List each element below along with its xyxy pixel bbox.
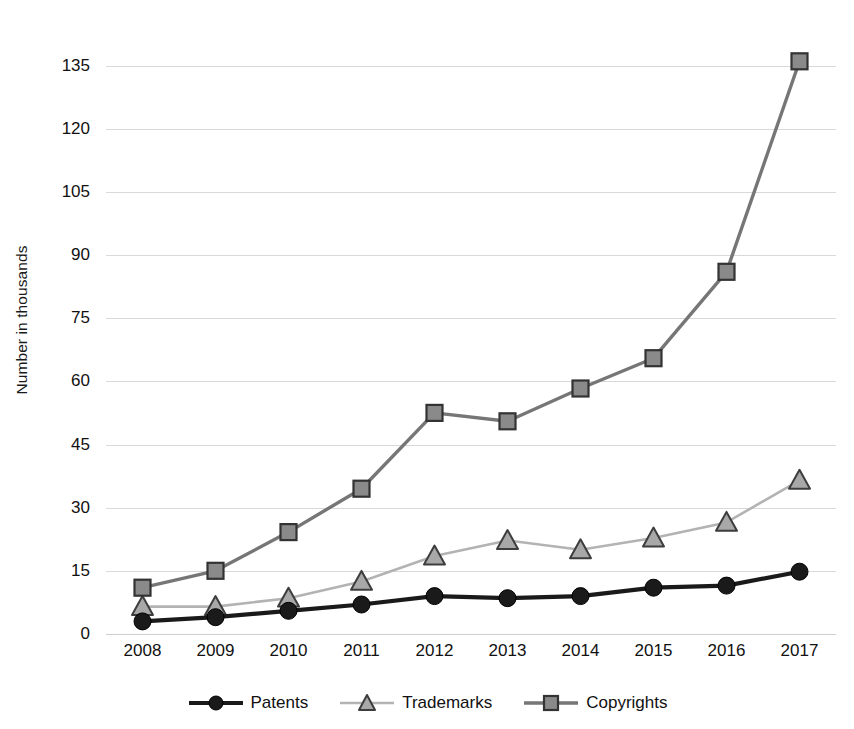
legend-label-copyrights: Copyrights xyxy=(586,693,667,713)
data-point-trademarks-2013 xyxy=(497,530,518,549)
gridline-0 xyxy=(106,634,836,635)
data-point-copyrights-2008 xyxy=(135,580,151,596)
x-tick-label-2009: 2009 xyxy=(176,641,256,661)
data-point-patents-2008 xyxy=(134,613,151,630)
data-point-copyrights-2012 xyxy=(427,405,443,421)
x-tick-label-2011: 2011 xyxy=(322,641,402,661)
x-axis-tick-labels: 2008200920102011201220132014201520162017 xyxy=(106,641,836,667)
data-point-patents-2015 xyxy=(645,579,662,596)
chart-legend: PatentsTrademarksCopyrights xyxy=(0,684,854,722)
data-point-trademarks-2016 xyxy=(716,512,737,531)
series-line-patents xyxy=(143,572,800,622)
x-tick-label-2016: 2016 xyxy=(687,641,767,661)
square-marker-icon xyxy=(522,692,580,714)
series-patents xyxy=(134,563,808,630)
data-point-copyrights-2016 xyxy=(719,264,735,280)
legend-item-trademarks[interactable]: Trademarks xyxy=(338,692,492,714)
circle-marker-icon-glyph xyxy=(209,696,223,710)
y-tick-label-60: 60 xyxy=(28,372,90,389)
data-point-copyrights-2017 xyxy=(792,53,808,69)
y-tick-label-45: 45 xyxy=(28,436,90,453)
data-point-copyrights-2014 xyxy=(573,381,589,397)
y-axis-tick-labels: 0153045607590105120135 xyxy=(28,33,90,634)
data-point-copyrights-2011 xyxy=(354,481,370,497)
data-point-trademarks-2017 xyxy=(789,470,810,489)
data-point-patents-2016 xyxy=(718,577,735,594)
data-point-patents-2010 xyxy=(280,602,297,619)
data-point-patents-2009 xyxy=(207,609,224,626)
x-tick-label-2015: 2015 xyxy=(614,641,694,661)
data-point-patents-2011 xyxy=(353,596,370,613)
data-point-trademarks-2011 xyxy=(351,571,372,590)
y-tick-label-120: 120 xyxy=(28,120,90,137)
x-tick-label-2008: 2008 xyxy=(103,641,183,661)
legend-item-patents[interactable]: Patents xyxy=(187,692,309,714)
data-point-patents-2017 xyxy=(791,563,808,580)
x-tick-label-2017: 2017 xyxy=(760,641,840,661)
data-point-copyrights-2013 xyxy=(500,413,516,429)
series-line-copyrights xyxy=(143,61,800,587)
triangle-marker-icon xyxy=(338,692,396,714)
data-point-patents-2014 xyxy=(572,588,589,605)
legend-label-patents: Patents xyxy=(251,693,309,713)
x-tick-label-2012: 2012 xyxy=(395,641,475,661)
x-tick-label-2010: 2010 xyxy=(249,641,329,661)
series-layer xyxy=(106,33,836,634)
square-marker-icon-glyph xyxy=(544,696,558,710)
plot-area xyxy=(106,33,836,634)
y-tick-label-135: 135 xyxy=(28,57,90,74)
legend-label-trademarks: Trademarks xyxy=(402,693,492,713)
y-tick-label-0: 0 xyxy=(28,625,90,642)
y-tick-label-30: 30 xyxy=(28,499,90,516)
data-point-copyrights-2010 xyxy=(281,524,297,540)
x-tick-label-2013: 2013 xyxy=(468,641,548,661)
y-tick-label-15: 15 xyxy=(28,562,90,579)
line-chart: Number in thousands 01530456075901051201… xyxy=(0,0,854,729)
y-tick-label-90: 90 xyxy=(28,246,90,263)
data-point-copyrights-2009 xyxy=(208,563,224,579)
y-tick-label-105: 105 xyxy=(28,183,90,200)
series-trademarks xyxy=(132,470,810,615)
y-tick-label-75: 75 xyxy=(28,309,90,326)
data-point-copyrights-2015 xyxy=(646,350,662,366)
legend-item-copyrights[interactable]: Copyrights xyxy=(522,692,667,714)
data-point-patents-2012 xyxy=(426,588,443,605)
circle-marker-icon xyxy=(187,692,245,714)
x-tick-label-2014: 2014 xyxy=(541,641,621,661)
data-point-patents-2013 xyxy=(499,590,516,607)
series-copyrights xyxy=(135,53,808,595)
